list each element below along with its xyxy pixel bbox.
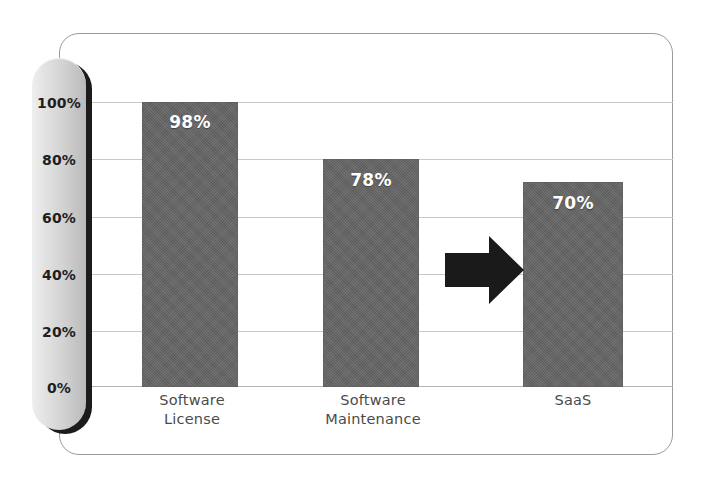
category-label-saas: SaaS xyxy=(503,391,643,410)
chart-root: 98% 78% 70% Software License Software Ma… xyxy=(0,0,702,478)
bar-software-license[interactable]: 98% xyxy=(142,102,238,387)
bar-software-maintenance[interactable]: 78% xyxy=(323,159,419,387)
y-tick-80: 80% xyxy=(32,152,86,168)
bar-value-saas: 70% xyxy=(523,193,623,213)
bar-value-software-license: 98% xyxy=(142,112,238,132)
y-tick-20: 20% xyxy=(32,324,86,340)
transition-arrow-icon xyxy=(445,236,524,304)
bar-value-software-maintenance: 78% xyxy=(323,170,419,190)
category-label-software-maintenance: Software Maintenance xyxy=(293,391,453,429)
y-axis-pill: 100% 80% 60% 40% 20% 0% xyxy=(32,58,86,430)
y-tick-100: 100% xyxy=(32,95,86,111)
bar-saas[interactable]: 70% xyxy=(523,182,623,387)
y-tick-0: 0% xyxy=(32,380,86,396)
category-label-software-license: Software License xyxy=(112,391,272,429)
y-tick-40: 40% xyxy=(32,267,86,283)
y-tick-60: 60% xyxy=(32,210,86,226)
plot-area: 98% 78% 70% xyxy=(91,95,673,387)
